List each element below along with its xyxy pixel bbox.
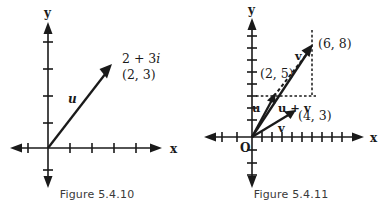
figure-panel-right: (2, 5) (6, 8) (4, 3) u u + v v v y x O F… bbox=[194, 0, 388, 217]
vector-u-arrowhead-icon bbox=[100, 64, 113, 79]
complex-number-label: 2 + 3i bbox=[122, 51, 160, 66]
vector-u-line bbox=[48, 73, 106, 148]
x-axis-arrow-right-icon bbox=[352, 133, 364, 142]
figure-pair: 2 + 3i (2, 3) u y x Figure 5.4.10 bbox=[0, 0, 388, 217]
vector-sum-label: u + v bbox=[278, 101, 311, 115]
figure-panel-left: 2 + 3i (2, 3) u y x Figure 5.4.10 bbox=[0, 0, 194, 217]
vector-v-label: v bbox=[277, 121, 285, 135]
vector-u-label: u bbox=[68, 92, 77, 106]
x-axis-arrow-right-icon bbox=[150, 144, 162, 153]
figure-caption-left: Figure 5.4.10 bbox=[0, 188, 194, 201]
figure-5-4-11-graph: (2, 5) (6, 8) (4, 3) u u + v v v y x O bbox=[194, 0, 388, 190]
point-coordinate-label: (2, 3) bbox=[122, 67, 156, 82]
figure-caption-right: Figure 5.4.11 bbox=[194, 188, 388, 201]
point-u-label: (2, 5) bbox=[260, 66, 294, 81]
y-axis-arrow-up-icon bbox=[248, 18, 257, 30]
y-axis-label: y bbox=[43, 6, 52, 20]
y-axis-arrow-up-icon bbox=[44, 22, 53, 34]
x-axis-label: x bbox=[370, 131, 378, 145]
x-axis-label: x bbox=[170, 142, 178, 156]
x-axis-arrow-left-icon bbox=[204, 133, 216, 142]
vector-v-translated-label: v bbox=[294, 49, 302, 63]
origin-label: O bbox=[240, 141, 250, 155]
vector-u-label: u bbox=[252, 101, 260, 115]
y-axis-arrow-down-icon bbox=[44, 176, 53, 188]
figure-5-4-10-graph: 2 + 3i (2, 3) u y x bbox=[0, 0, 194, 190]
x-axis-arrow-left-icon bbox=[10, 144, 22, 153]
point-sum-label: (6, 8) bbox=[318, 36, 352, 51]
y-axis-arrow-down-icon bbox=[248, 176, 257, 188]
y-axis-label: y bbox=[247, 3, 256, 17]
